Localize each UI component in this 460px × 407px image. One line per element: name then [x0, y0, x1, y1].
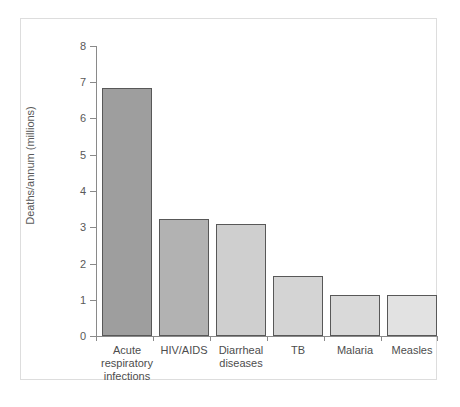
x-tick-4 [324, 336, 325, 341]
y-tick-1 [90, 300, 96, 301]
y-tick-5 [90, 155, 96, 156]
x-tick-5 [381, 336, 382, 341]
bar-diarrheal-diseases[interactable] [216, 224, 266, 336]
x-tick-1 [153, 336, 154, 341]
y-tick-label-8: 8 [58, 41, 86, 52]
y-tick-label-6: 6 [58, 113, 86, 124]
y-tick-3 [90, 227, 96, 228]
y-tick-label-0: 0 [58, 331, 86, 342]
y-tick-7 [90, 82, 96, 83]
x-tick-6 [437, 336, 438, 341]
bar-hiv-aids[interactable] [159, 219, 209, 336]
bar-tb[interactable] [273, 276, 323, 336]
y-tick-label-7: 7 [58, 77, 86, 88]
y-tick-label-2: 2 [58, 259, 86, 270]
y-tick-label-5: 5 [58, 150, 86, 161]
y-tick-4 [90, 191, 96, 192]
y-tick-2 [90, 264, 96, 265]
y-axis-line [96, 46, 97, 337]
bar-acute-respiratory-infections[interactable] [102, 88, 152, 336]
y-tick-label-3: 3 [58, 222, 86, 233]
x-tick-0 [96, 336, 97, 341]
y-tick-label-1: 1 [58, 295, 86, 306]
x-tick-3 [267, 336, 268, 341]
x-tick-2 [210, 336, 211, 341]
y-tick-6 [90, 118, 96, 119]
bar-chart-plot: 8 7 6 5 4 3 2 1 0 [0, 0, 460, 407]
figure: 8 7 6 5 4 3 2 1 0 [0, 0, 460, 407]
x-label-measles: Measles [377, 344, 447, 357]
y-tick-8 [90, 46, 96, 47]
y-tick-label-4: 4 [58, 186, 86, 197]
y-axis-title: Deaths/annum (millions) [25, 86, 36, 246]
bar-measles[interactable] [387, 295, 437, 336]
bar-malaria[interactable] [330, 295, 380, 336]
